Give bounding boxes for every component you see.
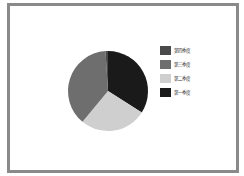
legend-item-q3: 第三季度 (160, 57, 190, 71)
legend-item-q4: 第四季度 (160, 43, 190, 57)
legend-label: 第一季度 (174, 89, 190, 95)
chart-legend: 第四季度 第三季度 第二季度 第一季度 (160, 43, 190, 99)
legend-label: 第四季度 (174, 47, 190, 53)
legend-swatch-icon (160, 74, 171, 83)
pie-chart (60, 45, 156, 137)
legend-item-q1: 第一季度 (160, 85, 190, 99)
legend-item-q2: 第二季度 (160, 71, 190, 85)
legend-label: 第三季度 (174, 61, 190, 67)
legend-swatch-icon (160, 88, 171, 97)
legend-label: 第二季度 (174, 75, 190, 81)
legend-swatch-icon (160, 60, 171, 69)
legend-swatch-icon (160, 46, 171, 55)
